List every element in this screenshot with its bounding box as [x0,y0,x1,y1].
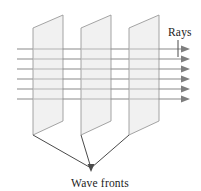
ray-group-left [17,49,34,99]
ray-group-gap-2-3 [111,49,130,99]
wave-front-panel-1 [33,15,63,135]
pointer-from-panel-3 [91,135,129,168]
ray-arrow-icon-3 [181,65,190,72]
diagram-canvas: Rays Wave fronts [0,0,201,191]
ray-arrowheads [181,45,190,102]
wave-fronts-label: Wave fronts [71,177,129,189]
ray-arrow-icon-1 [181,45,190,52]
ray-arrow-icon-5 [181,85,190,92]
wave-fronts-rays-figure: Rays Wave fronts [0,0,201,191]
wave-fronts-arrow-icon [88,164,95,172]
wave-front-panel-3 [129,15,159,135]
rays-label: Rays [168,26,192,39]
wave-front-panel-2 [81,15,111,135]
wave-front-panel-2-face [81,15,111,135]
ray-arrow-icon-4 [181,75,190,82]
wave-front-leader-lines [33,135,129,172]
ray-group-gap-1-2 [63,49,82,99]
wave-front-panel-3-face [129,15,159,135]
ray-arrow-icon-2 [181,55,190,62]
wave-front-panel-1-face [33,15,63,135]
ray-arrow-icon-6 [181,95,190,102]
